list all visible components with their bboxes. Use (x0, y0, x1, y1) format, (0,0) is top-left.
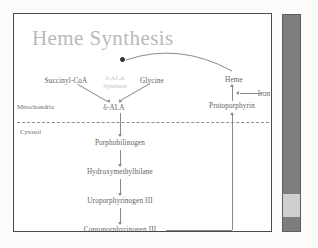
node-dala-mitochondria: δ-ALA (103, 104, 124, 112)
node-coproporphyrinogen-iii: Coproporphyrinogen III (84, 226, 157, 231)
arrowhead-hmb-to-uroporphyrinogen (118, 193, 122, 196)
arrowhead-iron-to-pathway (236, 91, 239, 95)
enzyme-label-line1: δ-ALA (103, 74, 127, 82)
node-porphobilinogen: Porphobilinogen (95, 139, 145, 147)
node-iron: Iron (258, 90, 271, 98)
compartment-label-cytosol: Cytosol (20, 128, 41, 135)
line-right-up-to-protoporphyrin (232, 114, 233, 230)
arrowhead-protoporphyrin-to-heme (230, 84, 234, 87)
line-iron-to-pathway (240, 93, 262, 94)
arrowhead-uroporphyrinogen-to-copro (118, 222, 122, 225)
line-protoporphyrin-to-heme (232, 87, 233, 101)
scrollbar-thumb[interactable] (283, 194, 300, 217)
node-heme: Heme (225, 76, 243, 84)
slide-content: Heme Synthesis Mitochondria Cytosol Succ… (14, 14, 271, 231)
arrowhead-porphobilinogen-to-hmb (118, 164, 122, 167)
node-hydroxymethylbilane: Hydroxymethylbilane (87, 168, 153, 176)
compartment-label-mitochondria: Mitochondria (17, 103, 54, 110)
line-copro-to-right (166, 230, 232, 231)
page-title: Heme Synthesis (32, 26, 174, 51)
line-dala-to-porphobilinogen (120, 113, 121, 136)
curve-enzyme-to-heme (126, 53, 232, 71)
scanned-slide-page: Heme Synthesis Mitochondria Cytosol Succ… (0, 0, 318, 248)
enzyme-label-dala-synthase: δ-ALA Synthase (103, 74, 127, 90)
arrowhead-to-protoporphyrin (230, 112, 234, 115)
slide-frame: Heme Synthesis Mitochondria Cytosol Succ… (13, 13, 272, 232)
arrowhead-dala-to-porphobilinogen (118, 134, 122, 137)
enzyme-marker-icon (120, 57, 125, 62)
node-uroporphyrinogen-iii: Uroporphyrinogen III (87, 197, 152, 205)
scrollbar-track[interactable] (282, 14, 301, 232)
enzyme-label-line2: Synthase (103, 82, 127, 90)
node-glycine: Glycine (140, 77, 164, 85)
node-protoporphyrin: Protoporphyrin (209, 102, 255, 110)
node-succinyl-coa: Succinyl-CoA (45, 77, 88, 85)
